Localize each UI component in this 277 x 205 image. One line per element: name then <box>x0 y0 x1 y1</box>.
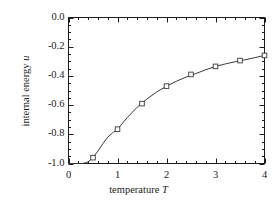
y-tick-label: 0.0 <box>51 11 64 22</box>
data-point-marker <box>238 58 243 63</box>
internal-energy-vs-temperature-plot <box>0 0 277 205</box>
data-point-marker <box>262 53 267 58</box>
y-tick-label: -0.6 <box>48 98 65 109</box>
y-tick-label: -1.0 <box>48 157 65 168</box>
y-axis-major-ticks <box>69 19 265 165</box>
data-point-marker <box>140 101 145 106</box>
data-line <box>69 55 265 163</box>
y-axis-title-symbol: u <box>20 56 31 61</box>
chart-figure: 0.0-0.2-0.4-0.6-0.8-1.0 01234 temperatur… <box>0 0 277 205</box>
x-axis-title-symbol: T <box>162 184 168 195</box>
data-point-marker <box>164 84 169 89</box>
data-point-marker <box>213 64 218 69</box>
y-axis-minor-ticks <box>69 26 265 157</box>
y-axis-title: internal energy u <box>15 11 33 171</box>
x-axis-title: temperature T <box>0 184 277 195</box>
plot-frame <box>69 18 265 164</box>
data-markers <box>91 53 267 160</box>
x-tick-label: 3 <box>206 169 226 180</box>
data-point-marker <box>189 72 194 77</box>
y-tick-label: -0.4 <box>48 69 65 80</box>
x-tick-label: 4 <box>255 169 275 180</box>
data-point-marker <box>115 127 120 132</box>
y-axis-title-text: internal energy <box>20 61 31 127</box>
x-tick-label: 1 <box>108 169 128 180</box>
x-tick-label: 2 <box>157 169 177 180</box>
data-point-marker <box>91 155 96 160</box>
x-axis-title-text: temperature <box>109 184 162 195</box>
y-tick-label: -0.2 <box>48 40 65 51</box>
x-tick-label: 0 <box>59 169 79 180</box>
y-tick-label: -0.8 <box>48 127 65 138</box>
x-axis-major-ticks <box>70 18 266 164</box>
